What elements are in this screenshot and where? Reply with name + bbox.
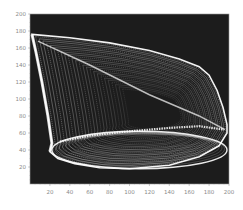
x-axis: 20406080100120140160180200 [35, 184, 235, 195]
x-tick-label: 200 [224, 189, 235, 195]
x-tick-label: 60 [86, 189, 93, 195]
y-tick-label: 60 [19, 130, 26, 136]
y-tick-label: 100 [16, 96, 27, 102]
x-tick-label: 180 [204, 189, 215, 195]
y-tick-label: 160 [16, 45, 27, 51]
y-tick-label: 40 [19, 147, 26, 153]
x-tick-label: 80 [106, 189, 113, 195]
x-tick-label: 100 [124, 189, 135, 195]
y-tick-label: 180 [16, 28, 27, 34]
phase-portrait-chart: 20406080100120140160180200 2040608010012… [0, 0, 243, 210]
x-tick-label: 160 [184, 189, 195, 195]
x-tick-label: 120 [144, 189, 155, 195]
y-tick-label: 140 [16, 62, 27, 68]
y-tick-label: 80 [19, 113, 26, 119]
y-axis: 20406080100120140160180200 [16, 11, 31, 180]
y-tick-label: 120 [16, 79, 27, 85]
x-tick-label: 140 [164, 189, 175, 195]
x-tick-label: 20 [46, 189, 53, 195]
y-tick-label: 200 [16, 11, 27, 17]
x-tick-label: 40 [66, 189, 73, 195]
y-tick-label: 20 [19, 164, 26, 170]
